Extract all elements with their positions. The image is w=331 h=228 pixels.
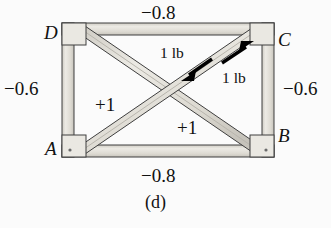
- member-value-diagonal-ac: +1: [177, 118, 197, 137]
- truss-figure: D C A B −0.8 −0.8 −0.6 −0.6 +1 +1 1 lb 1…: [0, 0, 331, 228]
- load-label-upper: 1 lb: [160, 45, 184, 61]
- gusset-C: [250, 23, 274, 45]
- joint-label-A: A: [45, 139, 57, 158]
- rivet-B-icon: [264, 148, 267, 151]
- rivet-A-icon: [68, 148, 71, 151]
- gusset-D: [62, 23, 86, 45]
- joint-label-C: C: [278, 30, 291, 49]
- figure-caption: (d): [145, 193, 166, 211]
- load-label-lower: 1 lb: [222, 70, 246, 86]
- gusset-A: [62, 135, 86, 157]
- joint-label-D: D: [44, 23, 58, 42]
- member-value-bottom: −0.8: [141, 166, 175, 185]
- member-value-top: −0.8: [141, 3, 175, 22]
- member-value-right: −0.6: [283, 79, 317, 98]
- gusset-B: [250, 135, 274, 157]
- member-value-left: −0.6: [4, 79, 38, 98]
- member-value-diagonal-bd: +1: [95, 95, 115, 114]
- joint-label-B: B: [278, 126, 290, 145]
